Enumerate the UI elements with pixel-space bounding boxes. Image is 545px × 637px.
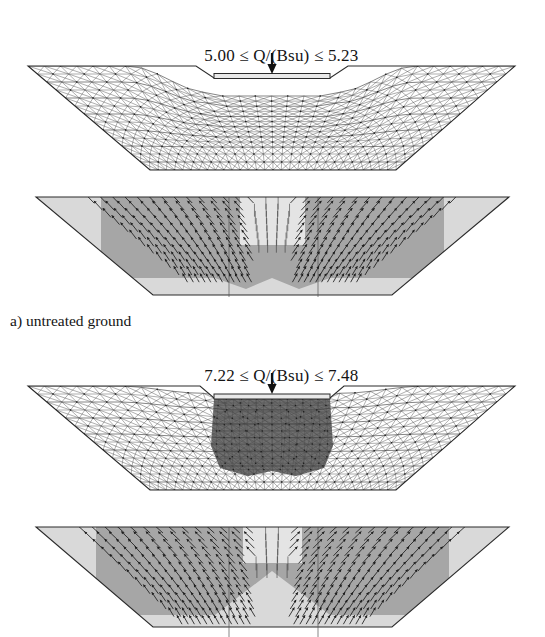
mesh-a-lines bbox=[27, 65, 516, 171]
panel-b-deformed-mesh bbox=[0, 372, 545, 500]
figure-root: 5.00 ≤ Q/(Bsu) ≤ 5.23 bbox=[0, 0, 545, 637]
load-arrow-a bbox=[267, 53, 276, 74]
load-arrow-b bbox=[267, 373, 276, 394]
footing-a bbox=[214, 74, 330, 79]
panel-b-velocity-field bbox=[0, 515, 545, 637]
footing-b bbox=[214, 394, 330, 399]
panel-a-deformed-mesh bbox=[0, 52, 545, 180]
subfigure-label-a: a) untreated ground bbox=[10, 312, 131, 330]
velocity-a-inner-channel bbox=[240, 197, 305, 245]
panel-a-velocity-field bbox=[0, 185, 545, 297]
